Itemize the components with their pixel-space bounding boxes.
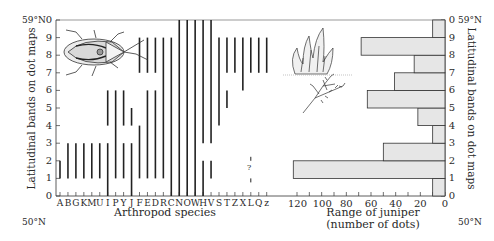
left-axis-title: Latitudinal bands on dot maps [26,24,37,194]
juniper-plant-icon [283,28,353,113]
right-tick-label: 0 [447,15,457,25]
right-tick-label: 3 [447,138,457,148]
left-tick-label: 1 [44,173,54,183]
right-tick-label: 8 [447,50,457,60]
left-tick-label: 4 [44,121,54,131]
left-tick-label: 0 [44,191,54,201]
right-tick-label: 1 [447,173,457,183]
right-tick-label: 7 [447,68,457,78]
juniper-axis-title-line2: (number of dots) [318,219,428,231]
right-tick-label: 9 [447,33,457,43]
left-tick-label: 7 [44,68,54,78]
right-tick-label: 4 [447,121,457,131]
shield-bug-icon [64,30,148,76]
left-tick-label: 2 [44,156,54,166]
left-tick-label: 8 [44,50,54,60]
left-tick-label: 3 [44,138,54,148]
species-label: z [262,199,271,208]
right-lat-bottom-label: 50°N [458,218,482,227]
left-tick-label: 9 [44,33,54,43]
right-tick-label: 5 [447,103,457,113]
right-tick-label: 2 [447,156,457,166]
arthropod-axis-title: Arthropod species [100,207,230,219]
left-tick-label: 6 [44,85,54,95]
uncertain-range-annotation: ? [247,163,251,173]
right-axis-title: Latitudinal bands on dot maps [466,24,477,194]
juniper-tick-label: 120 [288,199,306,209]
left-lat-bottom-label: 50°N [22,218,46,227]
right-tick-label: 6 [447,85,457,95]
juniper-tick-label: 0 [436,199,454,209]
left-tick-label: 0 [44,15,54,25]
left-tick-label: 5 [44,103,54,113]
